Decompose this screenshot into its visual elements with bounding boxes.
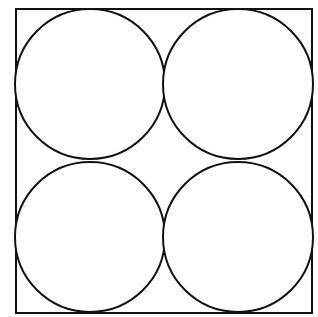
circle-top-left: [15, 9, 165, 159]
circle-top-right: [163, 9, 313, 159]
circle-bottom-left: [15, 162, 165, 312]
circles-in-square-diagram: [0, 0, 318, 317]
circle-bottom-right: [163, 162, 313, 312]
